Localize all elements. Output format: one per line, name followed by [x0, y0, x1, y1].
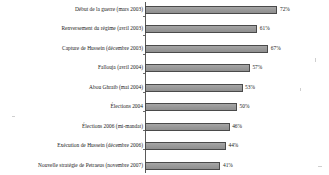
bar-fill — [145, 45, 268, 53]
bar-track: 50% — [145, 101, 329, 114]
category-label: Renversement du régime (avril 2003) — [61, 26, 143, 32]
scan-artifact — [318, 166, 322, 167]
axis-tick — [143, 111, 145, 112]
bar-value-label: 72% — [280, 7, 290, 12]
bar-track: 67% — [145, 42, 329, 55]
bar-row: Nouvelle stratégie de Petraeus (novembre… — [0, 159, 329, 172]
horizontal-bar-chart: Début de la guerre (mars 2003) 72% Renve… — [0, 0, 329, 175]
category-label: Exécution de Hussein (décembre 2006) — [57, 143, 143, 149]
category-label: Début de la guerre (mars 2003) — [75, 7, 143, 13]
axis-tick — [143, 35, 145, 36]
bar-value-label: 61% — [260, 26, 270, 31]
axis-tick — [143, 73, 145, 74]
bar-row: Début de la guerre (mars 2003) 72% — [0, 3, 329, 16]
bar-value-label: 41% — [223, 163, 233, 168]
bar-value-label: 44% — [228, 143, 238, 148]
bar-track: 46% — [145, 120, 329, 133]
bar-row: Capture de Hussein (décembre 2003) 67% — [0, 42, 329, 55]
bar-track: 57% — [145, 62, 329, 75]
axis-tick — [143, 149, 145, 150]
scan-artifact — [12, 116, 15, 117]
category-label: Capture de Hussein (décembre 2003) — [62, 46, 143, 52]
bar-track: 53% — [145, 81, 329, 94]
category-label: Élections 2006 (mi-mandat) — [82, 124, 143, 130]
bar-fill — [145, 123, 230, 131]
bar-value-label: 67% — [271, 46, 281, 51]
bar-value-label: 50% — [240, 104, 250, 109]
axis-tick — [143, 54, 145, 55]
bar-value-label: 53% — [245, 85, 255, 90]
category-label: Élections 2004 — [111, 104, 143, 110]
bar-rows-container: Début de la guerre (mars 2003) 72% Renve… — [0, 3, 329, 172]
bar-value-label: 57% — [252, 65, 262, 70]
bar-fill — [145, 64, 250, 72]
bar-row: Renversement du régime (avril 2003) 61% — [0, 23, 329, 36]
bar-track: 44% — [145, 140, 329, 153]
bar-fill — [145, 84, 243, 92]
bar-row: Exécution de Hussein (décembre 2006) 44% — [0, 140, 329, 153]
bar-row: Élections 2006 (mi-mandat) 46% — [0, 120, 329, 133]
axis-tick — [143, 16, 145, 17]
bar-row: Abou Ghraib (mai 2004) 53% — [0, 81, 329, 94]
bar-track: 41% — [145, 159, 329, 172]
bar-row: Fallouja (avril 2004) 57% — [0, 62, 329, 75]
category-label: Nouvelle stratégie de Petraeus (novembre… — [38, 163, 143, 169]
axis-tick — [143, 92, 145, 93]
bar-value-label: 46% — [232, 124, 242, 129]
category-label: Abou Ghraib (mai 2004) — [89, 85, 143, 91]
bar-fill — [145, 6, 277, 14]
bar-track: 61% — [145, 23, 329, 36]
scan-artifact — [300, 88, 301, 91]
axis-tick — [143, 130, 145, 131]
bar-fill — [145, 142, 226, 150]
scan-artifact — [315, 58, 316, 62]
bar-fill — [145, 103, 237, 111]
bar-row: Élections 2004 50% — [0, 101, 329, 114]
bar-track: 72% — [145, 3, 329, 16]
bar-fill — [145, 162, 220, 170]
bar-fill — [145, 25, 257, 33]
plot-area: Début de la guerre (mars 2003) 72% Renve… — [0, 0, 329, 175]
category-label: Fallouja (avril 2004) — [98, 65, 143, 71]
